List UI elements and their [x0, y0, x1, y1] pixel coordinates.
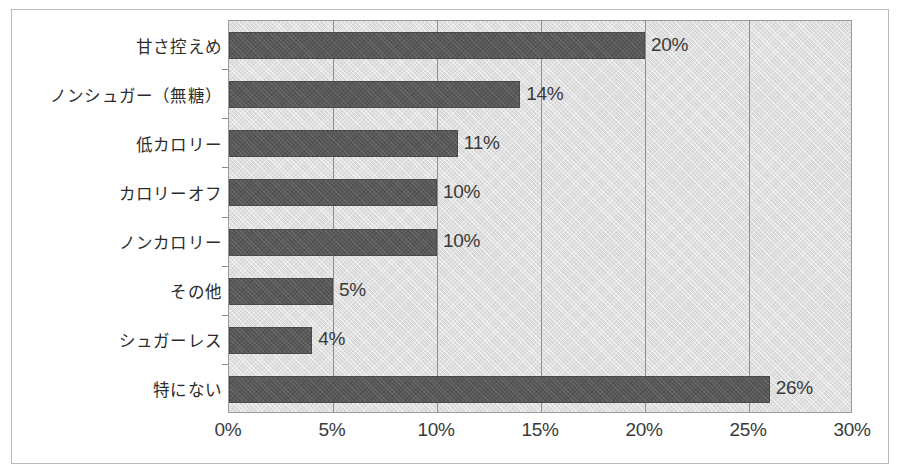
category-label: 低カロリー [20, 132, 222, 156]
bar-chart-figure: 甘さ控えめノンシュガー（無糖）低カロリーカロリーオフノンカロリーその他シュガーレ… [0, 0, 903, 475]
bar [229, 32, 645, 59]
category-label: ノンカロリー [20, 230, 222, 254]
y-axis-tick [222, 167, 228, 168]
category-label: 特にない [20, 377, 222, 401]
y-axis-tick [222, 364, 228, 365]
bar [229, 81, 520, 108]
bar [229, 229, 437, 256]
category-label: カロリーオフ [20, 181, 222, 205]
x-axis-tick-label: 25% [708, 419, 788, 441]
bar-value-label: 14% [526, 83, 563, 105]
bar-row [229, 229, 851, 256]
bar-row [229, 376, 851, 403]
bar-value-label: 5% [339, 279, 366, 301]
x-axis-tick-label: 0% [188, 419, 268, 441]
x-axis-tick-label: 10% [396, 419, 476, 441]
x-axis-tick-label: 15% [500, 419, 580, 441]
category-label: その他 [20, 279, 222, 303]
bar [229, 130, 458, 157]
x-axis-tick-label: 20% [604, 419, 684, 441]
bar-value-label: 11% [464, 132, 500, 154]
y-axis-tick [222, 266, 228, 267]
x-axis-tick-label: 30% [812, 419, 892, 441]
category-label: ノンシュガー（無糖） [20, 83, 222, 107]
bar-row [229, 278, 851, 305]
category-label: シュガーレス [20, 328, 222, 352]
bar-value-label: 20% [651, 34, 688, 56]
bar [229, 278, 333, 305]
y-axis-tick [222, 315, 228, 316]
bar-value-label: 26% [776, 377, 813, 399]
y-axis-tick [222, 217, 228, 218]
y-axis-tick [222, 118, 228, 119]
bar [229, 327, 312, 354]
bar-row [229, 179, 851, 206]
bar-row [229, 130, 851, 157]
bar-row [229, 32, 851, 59]
category-label: 甘さ控えめ [20, 34, 222, 58]
bar [229, 179, 437, 206]
bar [229, 376, 770, 403]
y-axis-tick [222, 69, 228, 70]
x-axis-tick-label: 5% [292, 419, 372, 441]
bar-value-label: 4% [318, 328, 345, 350]
plot-area [228, 20, 852, 413]
bar-value-label: 10% [443, 230, 480, 252]
bar-value-label: 10% [443, 181, 480, 203]
